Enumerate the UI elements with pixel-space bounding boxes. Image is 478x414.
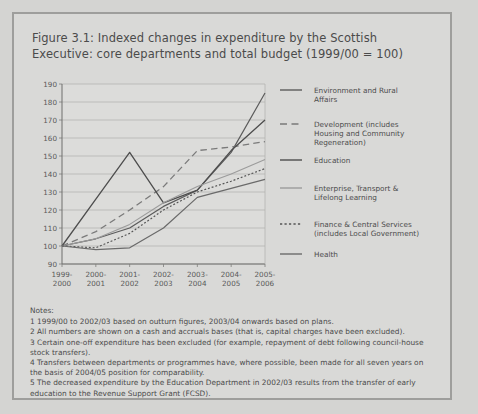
note-item: 3 Certain one-off expenditure has been e… [30,338,442,348]
y-axis-tick-label: 130 [43,188,57,197]
y-axis-tick-label: 150 [43,152,57,161]
legend-label: Regeneration) [314,138,366,147]
x-axis-tick-label: 2006 [256,279,275,288]
note-item: stock transfers). [30,348,442,358]
legend-label: Enterprise, Transport & [314,184,399,193]
legend-label: Lifelong Learning [314,193,377,202]
note-item: the basis of 2004/05 position for compar… [30,368,442,378]
note-item: 5 The decreased expenditure by the Educa… [30,378,442,388]
legend-label: Finance & Central Services [314,220,412,229]
y-axis-tick-label: 100 [43,242,57,251]
y-axis-tick-label: 160 [43,134,57,143]
chart-plot-area: 901001101201301401501601701801901999-200… [28,76,440,298]
legend-label: (includes Local Government) [314,229,419,238]
note-item: 1 1999/00 to 2002/03 based on outturn fi… [30,317,442,327]
x-axis-tick-label: 2000 [53,279,72,288]
y-axis-tick-label: 190 [43,80,57,89]
x-axis-tick-label: 2002- [153,270,174,279]
notes-section: Notes: 1 1999/00 to 2002/03 based on out… [30,306,442,399]
y-axis-tick-label: 90 [48,260,58,269]
figure-title-line-1: Figure 3.1: Indexed changes in expenditu… [32,30,432,46]
legend-label: Affairs [314,95,338,104]
x-axis-tick-label: 2003 [154,279,172,288]
figure-title: Figure 3.1: Indexed changes in expenditu… [32,30,432,62]
y-axis-tick-label: 180 [43,98,57,107]
x-axis-tick-label: 2004- [221,270,242,279]
x-axis-tick-label: 2000- [85,270,106,279]
figure-title-line-2: Executive: core departments and total bu… [32,46,432,62]
note-item: 4 Transfers between departments or progr… [30,358,442,368]
note-item: 2 All numbers are shown on a cash and ac… [30,327,442,337]
y-axis-tick-label: 140 [43,170,57,179]
x-axis-tick-label: 2005 [222,279,240,288]
x-axis-tick-label: 2001 [87,279,105,288]
y-axis-tick-label: 170 [43,116,57,125]
x-axis-tick-label: 2002 [121,279,139,288]
x-axis-tick-label: 2001- [119,270,140,279]
legend-label: Development (includes [314,120,399,129]
legend-label: Housing and Community [314,129,405,138]
figure-container: Figure 3.1: Indexed changes in expenditu… [12,12,452,400]
x-axis-tick-label: 1999- [52,270,73,279]
notes-heading: Notes: [30,306,442,316]
legend-label: Health [314,250,338,259]
x-axis-tick-label: 2004 [188,279,207,288]
x-axis-tick-label: 2005- [255,270,276,279]
y-axis-tick-label: 120 [43,206,57,215]
line-chart: 901001101201301401501601701801901999-200… [28,76,440,298]
x-axis-tick-label: 2003- [187,270,208,279]
legend-label: Education [314,156,350,165]
legend-label: Environment and Rural [314,86,398,95]
note-item: education to the Revenue Support Grant (… [30,389,442,399]
y-axis-tick-label: 110 [43,224,57,233]
